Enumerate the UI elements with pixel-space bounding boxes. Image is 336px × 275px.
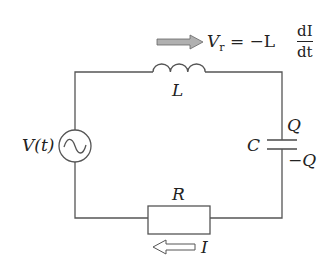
voltage-subscript: r [219, 41, 224, 54]
source-label: V(t) [22, 137, 54, 154]
capacitor-bottom-charge: −Q [288, 152, 316, 169]
voltage-eq-rhs: = −L [230, 31, 275, 51]
fraction-denominator: dt [297, 43, 313, 61]
voltage-symbol: V [207, 31, 219, 51]
wire-top-right [205, 72, 282, 140]
inductor-label: L [172, 82, 183, 99]
voltage-arrow-icon [157, 35, 203, 49]
derivative-fraction: dI dt [297, 22, 313, 61]
wire-top-left [75, 72, 153, 130]
capacitor-label: C [247, 137, 260, 154]
current-label: I [201, 239, 208, 256]
fraction-numerator: dI [297, 22, 313, 40]
resistor-icon [148, 206, 210, 234]
wire-bottom-right [210, 149, 282, 218]
fraction-bar [297, 41, 313, 42]
current-arrow-icon [153, 240, 195, 254]
wire-bottom-left [75, 162, 148, 218]
sine-wave-icon [64, 139, 86, 153]
capacitor-top-charge: Q [287, 117, 301, 134]
voltage-equation: Vr = −L [207, 33, 275, 53]
resistor-label: R [172, 186, 185, 203]
inductor-icon [153, 64, 205, 72]
